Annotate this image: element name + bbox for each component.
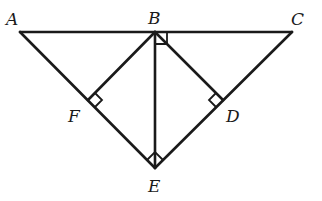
segment-bd xyxy=(155,32,223,100)
label-a: A xyxy=(4,9,18,29)
right-angle-mark-d xyxy=(209,93,216,107)
right-angle-mark-f xyxy=(95,93,102,107)
label-e: E xyxy=(147,176,161,196)
geometry-diagram: A B C F D E xyxy=(0,0,322,201)
label-c: C xyxy=(291,9,304,29)
label-d: D xyxy=(225,106,240,126)
segment-bf xyxy=(88,32,155,100)
label-f: F xyxy=(67,106,81,126)
label-b: B xyxy=(147,8,161,28)
